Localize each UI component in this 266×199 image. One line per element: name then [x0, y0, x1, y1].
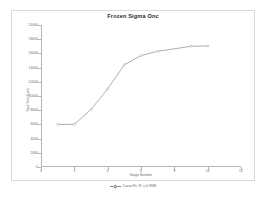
y-tick-label: 16000 [29, 51, 38, 55]
data-point-marker [156, 50, 158, 52]
series-polyline [58, 46, 208, 124]
y-tick-label: 8000 [30, 108, 38, 112]
legend-line-marker-icon [110, 185, 121, 189]
y-tick-label: 2000 [30, 151, 38, 155]
x-tick-label: 2 [73, 169, 75, 173]
chart-container: Frozen Sigma Onc Spot Size (µm) Stage Nu… [0, 0, 266, 199]
x-axis-label: Stage Number [41, 173, 241, 177]
y-axis-label: Spot Size (µm) [26, 88, 30, 111]
y-tick-label: 18000 [29, 37, 38, 41]
x-tick-label: 4 [107, 169, 109, 173]
x-tick-label: 12 [239, 169, 243, 173]
data-point-marker [206, 45, 208, 47]
y-tick-label: 0 [36, 165, 38, 169]
data-series-line [41, 25, 241, 167]
chart-legend: Curve Fit, R² = 0.9986 [0, 184, 266, 189]
chart-title: Frozen Sigma Onc [0, 13, 266, 20]
data-point-marker [56, 123, 58, 125]
y-tick-label: 4000 [30, 137, 38, 141]
y-tick-label: 20000 [29, 23, 38, 27]
y-tick-label: 14000 [29, 66, 38, 70]
y-tick-label: 6000 [30, 122, 38, 126]
x-tick-label: 8 [173, 169, 175, 173]
y-tick-label: 10000 [29, 94, 38, 98]
data-point-marker [190, 45, 192, 47]
x-tick-label: 0 [40, 169, 42, 173]
legend-item-label: Curve Fit, R² = 0.9986 [123, 184, 156, 189]
x-tick-label: 6 [140, 169, 142, 173]
plot-area: 0200040006000800010000120001400016000180… [41, 25, 241, 167]
x-tick-label: 10 [206, 169, 210, 173]
y-tick-label: 12000 [29, 80, 38, 84]
